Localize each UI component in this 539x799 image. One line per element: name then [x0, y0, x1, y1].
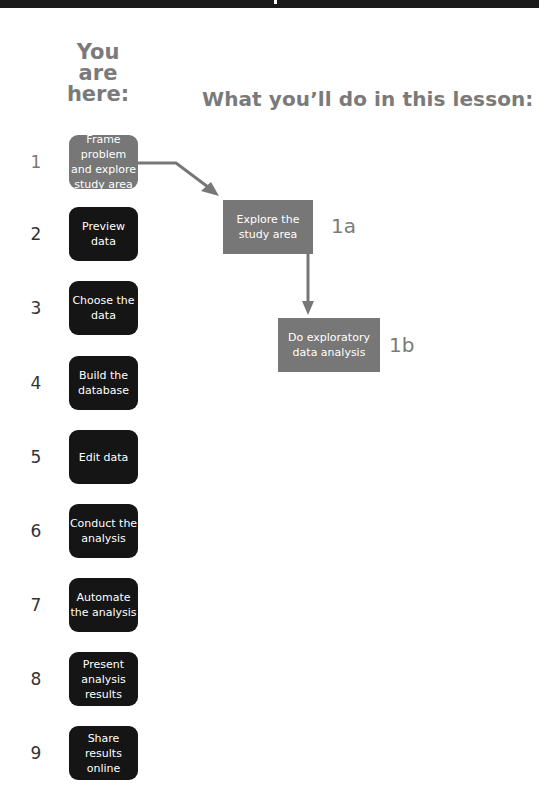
- step-7: 7 Automate the analysis: [0, 578, 160, 632]
- task-box-1a: Explore the study area: [223, 200, 313, 254]
- step-6: 6 Conduct the analysis: [0, 504, 160, 558]
- step-box: Preview data: [69, 207, 138, 261]
- step-5: 5 Edit data: [0, 430, 160, 484]
- step-number: 3: [28, 281, 44, 335]
- step-3: 3 Choose the data: [0, 281, 160, 335]
- step-box: Choose the data: [69, 281, 138, 335]
- step-number: 2: [28, 207, 44, 261]
- step-4: 4 Build the database: [0, 356, 160, 410]
- step-number: 9: [28, 726, 44, 780]
- step-2: 2 Preview data: [0, 207, 160, 261]
- step-box: Present analysis results: [69, 652, 138, 706]
- step-box: Edit data: [69, 430, 138, 484]
- step-box: Conduct the analysis: [69, 504, 138, 558]
- step-box: Build the database: [69, 356, 138, 410]
- arrowhead-1b: [302, 301, 314, 315]
- step-box: Automate the analysis: [69, 578, 138, 632]
- step-number: 6: [28, 504, 44, 558]
- task-id-1b: 1b: [389, 333, 414, 357]
- step-number: 7: [28, 578, 44, 632]
- step-9: 9 Share results online: [0, 726, 160, 780]
- task-box-1b: Do exploratory data analysis: [278, 318, 380, 372]
- step-number: 4: [28, 356, 44, 410]
- step-box: Share results online: [69, 726, 138, 780]
- step-number: 8: [28, 652, 44, 706]
- step-8: 8 Present analysis results: [0, 652, 160, 706]
- step-number: 5: [28, 430, 44, 484]
- task-id-1a: 1a: [331, 214, 356, 238]
- step-number: 1: [28, 135, 44, 189]
- step-box: Frame problem and explore study area: [69, 135, 138, 189]
- step-1: 1 Frame problem and explore study area: [0, 135, 160, 189]
